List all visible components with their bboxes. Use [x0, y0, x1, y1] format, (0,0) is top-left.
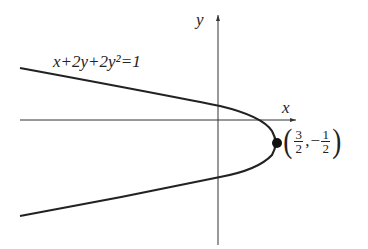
- parabola-curve: [20, 68, 276, 216]
- equation-label: x+2y+2y²=1: [53, 52, 141, 72]
- y-axis-arrow-icon: [216, 15, 220, 21]
- vertex-label: ( 3 2 , − 1 2 ): [282, 124, 343, 158]
- x-axis-label: x: [282, 98, 290, 118]
- open-paren: (: [283, 124, 292, 158]
- close-paren: ): [332, 124, 341, 158]
- vertex-point: [272, 138, 282, 148]
- y-axis-label: y: [196, 10, 204, 30]
- vertex-y-fraction: 1 2: [321, 128, 330, 155]
- vertex-x-fraction: 3 2: [294, 128, 303, 155]
